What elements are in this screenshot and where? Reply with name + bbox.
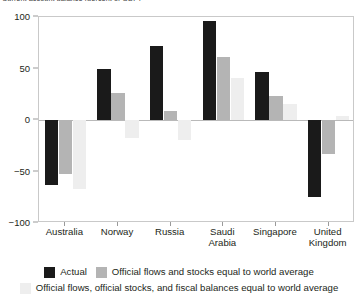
legend-item-actual[interactable]: Actual <box>44 266 87 278</box>
bar[interactable] <box>59 120 73 174</box>
x-axis-label: Russia <box>143 227 196 238</box>
bar[interactable] <box>125 120 139 138</box>
bar[interactable] <box>283 104 297 120</box>
x-axis-label: Saudi Arabia <box>196 227 249 248</box>
legend-swatch-icon-actual <box>44 267 55 278</box>
legend-label-official-flows-stocks-fiscal: Official flows, official stocks, and fis… <box>36 282 339 294</box>
bar-group <box>203 17 245 221</box>
bar[interactable] <box>45 120 59 185</box>
bar[interactable] <box>308 120 322 197</box>
bar-group <box>97 17 139 221</box>
bar-group <box>45 17 87 221</box>
bar-group <box>255 17 297 221</box>
x-axis-label: United Kingdom <box>301 227 354 248</box>
bar-group <box>150 17 192 221</box>
bar[interactable] <box>97 69 111 121</box>
legend-item-official-flows-stocks-fiscal[interactable]: Official flows, official stocks, and fis… <box>20 282 339 294</box>
x-axis-label: Singapore <box>249 227 302 238</box>
bar[interactable] <box>269 96 283 120</box>
legend-swatch-icon-official-flows-stocks-fiscal <box>20 283 31 294</box>
chart-title: Current account balance (percent of GDP) <box>2 0 141 1</box>
bar[interactable] <box>336 116 350 120</box>
x-axis: AustraliaNorwayRussiaSaudi ArabiaSingapo… <box>38 222 354 260</box>
bar[interactable] <box>203 21 217 120</box>
legend-label-official-flows-stocks: Official flows and stocks equal to world… <box>112 266 314 278</box>
y-axis-tick-label: −100 <box>9 217 30 228</box>
bar[interactable] <box>322 120 336 154</box>
bar[interactable] <box>231 78 245 120</box>
plot-area <box>38 16 354 222</box>
y-axis-tick-label: 0 <box>25 114 30 125</box>
legend-item-official-flows-stocks[interactable]: Official flows and stocks equal to world… <box>96 266 314 278</box>
bar[interactable] <box>111 93 125 120</box>
bar[interactable] <box>73 120 87 189</box>
y-axis-tick-label: 100 <box>14 11 30 22</box>
legend-label-actual: Actual <box>60 266 87 278</box>
x-axis-label: Norway <box>91 227 144 238</box>
bar[interactable] <box>255 72 269 120</box>
bars-layer <box>39 17 353 221</box>
bar[interactable] <box>150 46 164 120</box>
bar-group <box>308 17 350 221</box>
chart-legend: Actual Official flows and stocks equal t… <box>0 266 358 294</box>
x-axis-label: Australia <box>38 227 91 238</box>
y-axis-tick-label: 50 <box>19 62 30 73</box>
legend-swatch-icon-official-flows-stocks <box>96 267 107 278</box>
bar[interactable] <box>217 57 231 120</box>
y-axis-tick-label: −50 <box>14 165 30 176</box>
bar[interactable] <box>178 120 192 140</box>
legend-row-primary: Actual Official flows and stocks equal t… <box>0 266 358 278</box>
legend-row-secondary: Official flows, official stocks, and fis… <box>0 282 358 294</box>
y-axis: 100500−50−100 <box>0 16 38 222</box>
bar[interactable] <box>164 111 178 120</box>
